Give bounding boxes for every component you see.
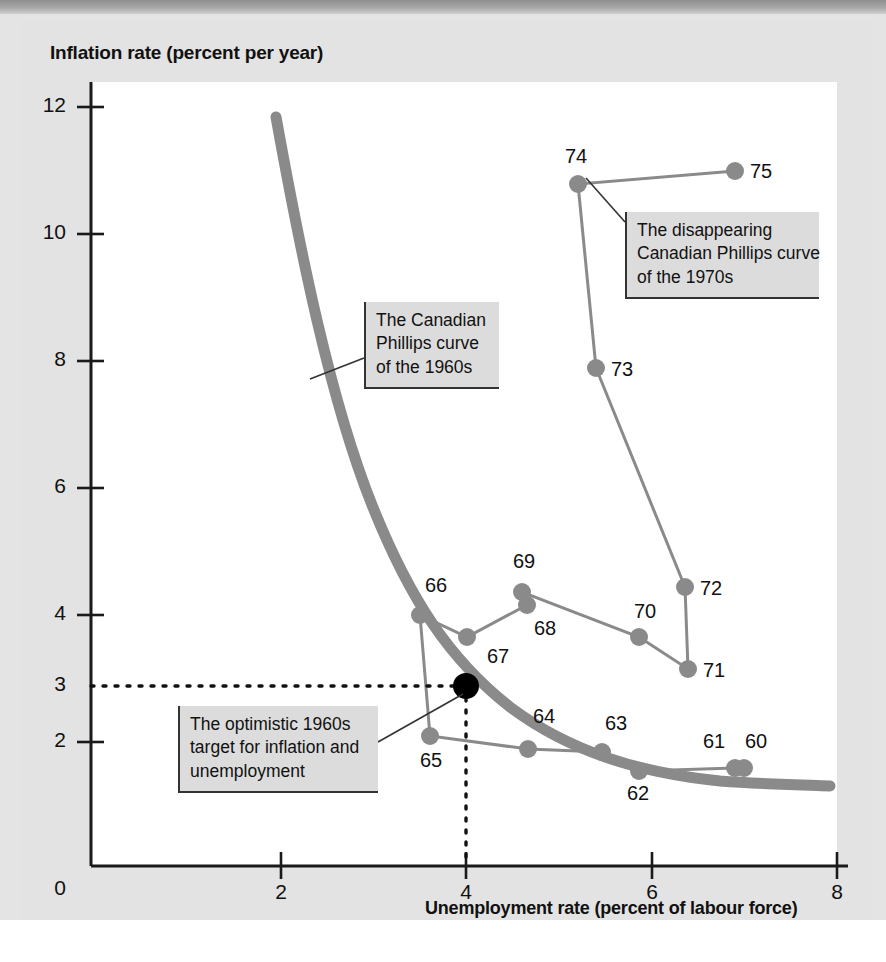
point-label-72: 72 (700, 577, 722, 600)
point-label-75: 75 (750, 160, 772, 183)
point-72 (676, 578, 694, 596)
point-61 (726, 759, 744, 777)
point-74 (569, 175, 587, 193)
x-tick-label-6: 6 (632, 880, 672, 904)
point-label-63: 63 (605, 712, 627, 735)
leader-line-1970s (586, 178, 625, 222)
point-label-68: 68 (534, 617, 556, 640)
callout-target-line3: unemployment (190, 760, 366, 783)
point-label-66: 66 (425, 574, 447, 597)
point-71 (679, 660, 697, 678)
callout-1960s-line1: The Canadian (376, 309, 487, 332)
callout-1970s-line1: The disappearing (637, 219, 807, 242)
figure-container: Inflation rate (percent per year) Unempl… (0, 0, 886, 962)
y-tick-label-2: 2 (28, 728, 66, 752)
point-63 (593, 743, 611, 761)
point-label-67: 67 (487, 645, 509, 668)
point-70 (630, 628, 648, 646)
point-69 (513, 583, 531, 601)
callout-1960s-line3: of the 1960s (376, 356, 487, 379)
chart-svg (0, 0, 886, 962)
y-tick-label-12: 12 (28, 93, 66, 117)
y-tick-label-3: 3 (28, 672, 66, 696)
point-label-61: 61 (703, 730, 725, 753)
point-67 (458, 628, 476, 646)
y-tick-label-10: 10 (28, 220, 66, 244)
callout-1970s-line2: Canadian Phillips curve (637, 242, 807, 265)
point-75 (726, 162, 744, 180)
point-label-74: 74 (565, 145, 587, 168)
leader-line-target (378, 694, 463, 742)
point-label-65: 65 (420, 749, 442, 772)
point-label-60: 60 (745, 730, 767, 753)
leader-line-1960s (310, 358, 364, 379)
point-label-70: 70 (634, 600, 656, 623)
y-tick-label-6: 6 (28, 474, 66, 498)
point-62 (630, 762, 648, 780)
callout-1960s-line2: Phillips curve (376, 332, 487, 355)
point-label-64: 64 (533, 705, 555, 728)
y-tick-label-4: 4 (28, 601, 66, 625)
callout-target-line2: target for inflation and (190, 736, 366, 759)
callout-phillips-1970s: The disappearing Canadian Phillips curve… (625, 212, 819, 299)
callout-1970s-line3: of the 1970s (637, 266, 807, 289)
point-64 (519, 740, 537, 758)
callout-target-line1: The optimistic 1960s (190, 713, 366, 736)
x-tick-label-8: 8 (817, 880, 857, 904)
callout-phillips-1960s: The Canadian Phillips curve of the 1960s (364, 302, 499, 389)
page-bottom-band (0, 920, 886, 962)
y-tick-label-0: 0 (28, 876, 66, 900)
point-label-69: 69 (513, 550, 535, 573)
point-65 (421, 727, 439, 745)
callout-target: The optimistic 1960s target for inflatio… (178, 706, 378, 793)
point-66 (411, 606, 429, 624)
y-tick-label-8: 8 (28, 347, 66, 371)
point-73 (587, 359, 605, 377)
point-label-73: 73 (611, 358, 633, 381)
point-label-71: 71 (703, 659, 725, 682)
point-label-62: 62 (627, 782, 649, 805)
x-tick-label-2: 2 (261, 880, 301, 904)
target-point-dot (453, 673, 479, 699)
x-tick-label-4: 4 (446, 880, 486, 904)
